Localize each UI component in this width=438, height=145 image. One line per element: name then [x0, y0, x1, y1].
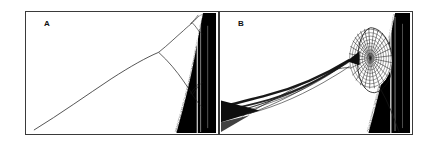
panel-b: B [219, 11, 413, 135]
convergence-wedge-b [221, 101, 260, 132]
branch-period-2-a [159, 23, 193, 95]
branch-fixed-point-a [34, 52, 159, 130]
panel-a-label: A [44, 20, 50, 28]
chaos-region-a [165, 12, 218, 134]
panel-b-label: B [238, 20, 244, 28]
panel-a-plot [26, 12, 218, 134]
figure-root: A [0, 0, 438, 145]
panel-a: A [25, 11, 219, 135]
panel-row: A [25, 11, 413, 135]
panel-b-plot [220, 12, 412, 134]
